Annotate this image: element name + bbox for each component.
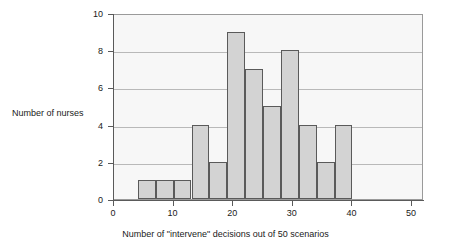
bar — [174, 180, 192, 199]
bar — [317, 162, 335, 199]
bar — [281, 50, 299, 199]
x-tick-mark — [411, 201, 412, 206]
plot-area — [113, 14, 423, 200]
x-tick-mark — [351, 201, 352, 206]
bar — [299, 125, 317, 199]
x-tick-mark — [113, 201, 114, 206]
x-axis-line — [113, 200, 424, 201]
x-tick-mark — [173, 201, 174, 206]
x-tick-label: 0 — [101, 208, 125, 218]
y-axis-line — [113, 14, 114, 201]
bar — [335, 125, 353, 199]
y-tick-label: 6 — [83, 83, 103, 93]
y-axis-title: Number of nurses — [12, 108, 84, 118]
bar — [263, 106, 281, 199]
bar — [192, 125, 210, 199]
x-tick-label: 10 — [161, 208, 185, 218]
x-tick-label: 20 — [220, 208, 244, 218]
y-tick-mark — [108, 126, 113, 127]
x-axis-title: Number of "intervene" decisions out of 5… — [0, 229, 451, 239]
y-tick-mark — [108, 14, 113, 15]
y-tick-label: 10 — [83, 9, 103, 19]
bar — [209, 162, 227, 199]
y-tick-label: 4 — [83, 121, 103, 131]
y-tick-mark — [108, 163, 113, 164]
x-tick-label: 50 — [399, 208, 423, 218]
bar — [227, 32, 245, 199]
bars-layer — [114, 15, 422, 199]
x-tick-mark — [292, 201, 293, 206]
x-tick-label: 40 — [339, 208, 363, 218]
y-tick-label: 2 — [83, 158, 103, 168]
bar — [138, 180, 156, 199]
y-tick-mark — [108, 51, 113, 52]
y-tick-label: 0 — [83, 195, 103, 205]
x-tick-label: 30 — [280, 208, 304, 218]
bar — [156, 180, 174, 199]
y-tick-label: 8 — [83, 46, 103, 56]
bar — [245, 69, 263, 199]
histogram-figure: 0246810 01020304050 Number of nurses Num… — [0, 0, 451, 250]
y-tick-mark — [108, 88, 113, 89]
x-tick-mark — [232, 201, 233, 206]
